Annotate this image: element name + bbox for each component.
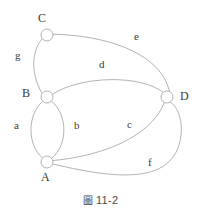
vertex-label-A: A — [41, 171, 50, 183]
edge-f-path — [53, 102, 182, 175]
edge-c-path — [53, 102, 165, 160]
graph-diagram — [0, 0, 201, 219]
edge-e-path — [53, 34, 170, 91]
caption-number: 11-2 — [96, 194, 118, 206]
figure-container: C B A D a b c d e f g 圖11-2 — [0, 0, 201, 219]
figure-caption: 圖11-2 — [0, 192, 201, 207]
edge-a-path — [31, 102, 43, 159]
vertex-label-D: D — [180, 90, 189, 102]
vertex-label-C: C — [38, 12, 46, 24]
vertex-B[interactable] — [41, 91, 53, 103]
edge-label-b: b — [74, 120, 80, 131]
edge-d-path — [53, 80, 164, 95]
caption-cjk-symbol: 圖 — [83, 195, 93, 206]
edge-label-g: g — [15, 50, 21, 61]
vertex-D[interactable] — [161, 91, 173, 103]
edge-label-a: a — [14, 120, 19, 131]
edge-label-d: d — [99, 59, 105, 70]
edge-label-c: c — [127, 119, 132, 130]
edge-label-e: e — [134, 31, 139, 42]
vertex-C[interactable] — [41, 29, 53, 41]
edge-g-path — [34, 39, 43, 93]
vertex-label-B: B — [22, 87, 30, 99]
edge-label-f: f — [148, 157, 152, 168]
vertex-A[interactable] — [41, 156, 53, 168]
edge-b-path — [52, 101, 64, 158]
